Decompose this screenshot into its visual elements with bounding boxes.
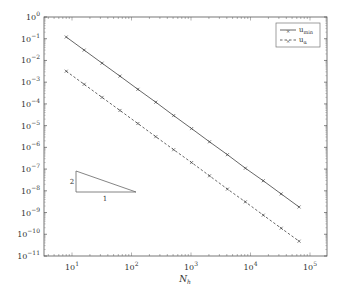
y-axis: 10010−110−210−310−410−510−610−710−810−91… (17, 10, 327, 261)
x-marker-icon (190, 161, 193, 164)
x-axis: 101102103104105 (65, 260, 317, 272)
x-marker-icon (226, 188, 229, 191)
x-tick-label: 103 (184, 260, 198, 272)
slope-run-label: 1 (103, 195, 107, 203)
x-marker-icon (280, 227, 283, 230)
x-marker-icon (190, 127, 193, 130)
y-tick-label: 10−1 (21, 32, 40, 44)
y-tick-label: 10−10 (17, 227, 40, 239)
x-marker-icon (154, 135, 157, 138)
x-marker-icon (226, 153, 229, 156)
y-tick-label: 10−8 (21, 184, 40, 196)
x-marker-icon (298, 205, 301, 208)
y-tick-label: 10−2 (21, 53, 40, 65)
x-marker-icon (118, 109, 121, 112)
x-marker-icon (208, 174, 211, 177)
x-marker-icon (83, 83, 86, 86)
x-tick-label: 105 (303, 260, 317, 272)
y-tick-label: 10−3 (21, 75, 40, 87)
x-marker-icon (65, 36, 68, 39)
x-marker-icon (262, 179, 265, 182)
x-marker-icon (172, 148, 175, 151)
x-axis-title: Nh (178, 274, 191, 285)
y-tick-label: 10−6 (21, 140, 40, 152)
y-tick-label: 10−11 (17, 249, 40, 261)
x-tick-label: 101 (65, 260, 79, 272)
x-marker-icon (136, 88, 139, 91)
plot-frame (44, 17, 327, 256)
x-marker-icon (101, 96, 104, 99)
x-marker-icon (101, 62, 104, 65)
x-marker-icon (118, 75, 121, 78)
y-tick-label: 10−9 (21, 206, 40, 218)
x-marker-icon (154, 101, 157, 104)
y-tick-label: 100 (26, 10, 40, 22)
x-marker-icon: × (286, 28, 290, 34)
x-marker-icon (136, 122, 139, 125)
x-marker-icon (65, 70, 68, 73)
x-marker-icon (83, 49, 86, 52)
series-layer (65, 36, 301, 243)
x-marker-icon (244, 167, 247, 170)
slope-triangle: 2 1 (70, 171, 136, 203)
x-marker-icon (262, 214, 265, 217)
convergence-chart: 10010−110−210−310−410−510−610−710−810−91… (0, 0, 344, 302)
x-marker-icon (280, 192, 283, 195)
minor-ticks (44, 17, 327, 256)
y-tick-label: 10−7 (21, 162, 40, 174)
x-marker-icon: × (286, 38, 290, 44)
x-marker-icon (172, 114, 175, 117)
x-tick-label: 102 (124, 260, 138, 272)
x-marker-icon (244, 200, 247, 203)
legend: × umin × uα (276, 23, 320, 47)
y-tick-label: 10−4 (21, 97, 40, 109)
x-tick-label: 104 (243, 260, 257, 272)
x-marker-icon (298, 240, 301, 243)
x-marker-icon (208, 140, 211, 143)
y-tick-label: 10−5 (21, 119, 40, 131)
slope-rise-label: 2 (70, 178, 74, 186)
